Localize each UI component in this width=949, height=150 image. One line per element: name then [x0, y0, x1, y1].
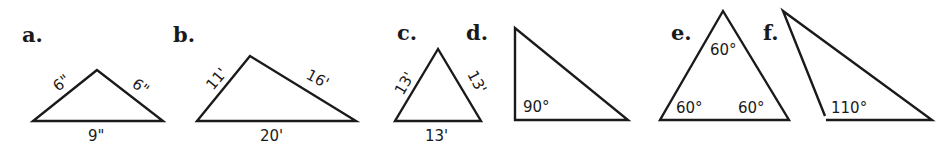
side-label-c-base: 13' [425, 127, 448, 145]
triangle-diagram: a. 6" 6" 9" b. 11' 16' 20' c. 13' 13' 13… [0, 0, 949, 150]
angle-label-e-top: 60° [710, 41, 737, 59]
figure-letter-b: b. [173, 22, 195, 47]
side-label-b-right: 16' [303, 66, 332, 93]
figure-a: a. 6" 6" 9" [22, 22, 163, 145]
figure-letter-e: e. [671, 20, 692, 45]
angle-label-e-left: 60° [676, 99, 703, 117]
side-label-a-base: 9" [88, 127, 104, 145]
triangle-b [197, 56, 356, 121]
side-label-c-left: 13' [391, 69, 418, 98]
side-label-a-right: 6" [129, 75, 153, 99]
angle-label-d: 90° [523, 98, 550, 116]
side-label-b-left: 11' [202, 64, 231, 93]
figure-f: f. 110° [763, 11, 932, 120]
figure-d: d. 90° [466, 20, 628, 120]
figure-letter-a: a. [22, 22, 43, 47]
side-label-b-base: 20' [260, 127, 283, 145]
angle-label-f: 110° [831, 99, 867, 117]
angle-label-e-right: 60° [738, 99, 765, 117]
side-label-c-right: 13' [463, 67, 490, 96]
figure-letter-f: f. [763, 20, 779, 45]
figure-letter-c: c. [397, 20, 417, 45]
figure-b: b. 11' 16' 20' [173, 22, 356, 145]
figure-letter-d: d. [466, 20, 488, 45]
